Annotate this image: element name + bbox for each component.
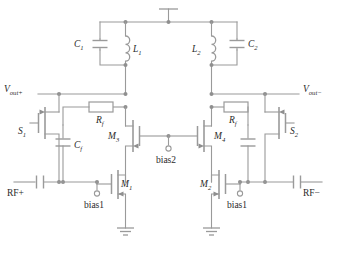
label-bias1-right: bias1: [227, 200, 247, 210]
bias2-terminal: bias2: [156, 134, 176, 165]
transistor-m4: M4: [169, 107, 226, 182]
label-vout-minus: Vout−: [303, 84, 322, 96]
m4-arrow: [199, 144, 205, 149]
right-tank: C2 L2: [191, 22, 258, 94]
left-input-network: RF+ bias1: [7, 176, 104, 211]
m2-arrow: [214, 192, 220, 197]
label-l2: L2: [191, 44, 201, 56]
transistor-s1: S1: [18, 94, 61, 184]
label-bias2: bias2: [156, 155, 176, 165]
right-input-network: RF− bias1: [227, 176, 322, 211]
left-tank: C1 L1: [74, 22, 142, 94]
supply-rail: [100, 9, 237, 24]
junction-dot: [210, 63, 214, 67]
label-l1: L1: [132, 44, 142, 56]
label-rf-right: Rf: [228, 115, 238, 127]
bias1-right-open-terminal: [237, 191, 242, 196]
label-c1: C1: [74, 39, 84, 51]
junction-dot: [124, 63, 128, 67]
junction-dot: [210, 92, 214, 96]
label-rf-left: Rf: [95, 115, 105, 127]
left-feedback-rf: Rf: [63, 102, 128, 127]
label-m3: M3: [107, 131, 120, 143]
junction-dot: [167, 20, 171, 24]
label-bias1-left: bias1: [84, 200, 104, 210]
junction-dot: [124, 92, 128, 96]
circuit-schematic: C1 L1 C2 L2: [0, 0, 337, 254]
bias1-left-open-terminal: [94, 191, 99, 196]
ground-right: [203, 228, 220, 235]
junction-dot: [210, 105, 214, 109]
label-m4: M4: [213, 131, 226, 143]
resistor-rf-left: [89, 102, 113, 112]
label-rf-in-plus: RF+: [7, 188, 24, 198]
s2-arrow: [279, 110, 285, 115]
transistor-m3: M3: [107, 107, 169, 182]
right-feedback-rf: Rf: [210, 102, 249, 127]
transistor-s2: S2: [263, 94, 299, 184]
label-vout-plus: Vout+: [4, 84, 23, 96]
right-cf: [241, 125, 256, 184]
m3-arrow: [133, 144, 139, 149]
left-cf: Cf: [56, 125, 84, 184]
label-s1: S1: [18, 126, 26, 138]
transistor-m2: M2: [199, 170, 240, 228]
label-s2: S2: [290, 126, 299, 138]
label-m1: M1: [120, 179, 132, 191]
capacitor-c1: [93, 39, 108, 50]
output-rails: Vout+ Vout−: [4, 84, 322, 96]
label-c2: C2: [248, 39, 258, 51]
capacitor-c2: [230, 39, 245, 50]
s1-arrow: [40, 110, 46, 115]
transistor-m1: M1: [97, 170, 132, 228]
resistor-rf-right: [224, 102, 248, 112]
inductor-l2: [212, 36, 216, 61]
bias2-open-terminal: [166, 146, 171, 151]
label-cf-left: Cf: [74, 140, 83, 152]
label-m2: M2: [199, 179, 212, 191]
inductor-l1: [126, 36, 130, 61]
ground-left: [117, 228, 134, 235]
m1-arrow: [118, 192, 124, 197]
label-rf-in-minus: RF−: [303, 188, 320, 198]
